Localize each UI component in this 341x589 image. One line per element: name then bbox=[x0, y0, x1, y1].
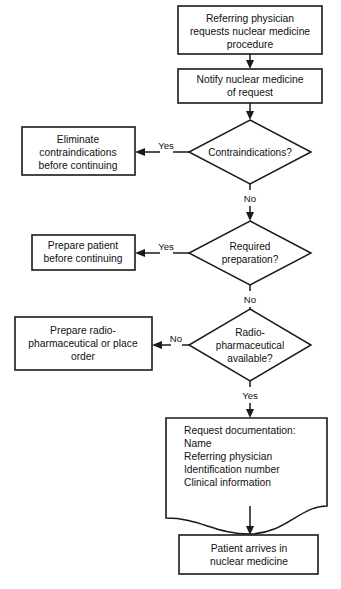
flowchart-diagram: Referring physician requests nuclear med… bbox=[0, 0, 341, 589]
start-line-2: requests nuclear medicine bbox=[190, 26, 310, 37]
arrival-line-1: Patient arrives in bbox=[211, 543, 288, 554]
edge-label-preparation-yes: Yes bbox=[158, 241, 174, 252]
documentation-line-3: Referring physician bbox=[184, 451, 272, 462]
connector-preparation-yes: Yes bbox=[135, 241, 189, 257]
notify-line-2: of request bbox=[227, 87, 273, 98]
node-arrival: Patient arrives in nuclear medicine bbox=[179, 535, 318, 574]
decision-radiopharmaceutical-line-1: Radio- bbox=[235, 327, 265, 338]
decision-preparation-shape bbox=[189, 221, 311, 285]
node-decision-contraindications: Contraindications? bbox=[189, 120, 311, 184]
connector-notify-to-decision-contraindications bbox=[246, 103, 254, 120]
connector-contraindications-no: No bbox=[244, 184, 256, 221]
arrowhead-down-icon bbox=[246, 60, 254, 69]
prepare-radiopharmaceutical-line-2: pharmaceutical or place bbox=[28, 338, 138, 349]
prepare-patient-line-1: Prepare patient bbox=[48, 240, 119, 251]
node-prepare-radiopharmaceutical: Prepare radio- pharmaceutical or place o… bbox=[15, 317, 152, 370]
documentation-line-1: Request documentation: bbox=[184, 425, 296, 436]
decision-radiopharmaceutical-line-3: available? bbox=[227, 353, 273, 364]
arrowhead-left-icon bbox=[135, 249, 145, 257]
start-line-3: procedure bbox=[227, 39, 274, 50]
connector-contraindications-yes: Yes bbox=[135, 140, 189, 156]
node-documentation: Request documentation: Name Referring ph… bbox=[166, 418, 327, 534]
arrowhead-left-icon bbox=[152, 341, 162, 349]
prepare-radiopharmaceutical-line-1: Prepare radio- bbox=[50, 325, 116, 336]
notify-line-1: Notify nuclear medicine bbox=[196, 74, 303, 85]
edge-label-contraindications-yes: Yes bbox=[158, 140, 174, 151]
start-line-1: Referring physician bbox=[206, 13, 294, 24]
decision-preparation-line-1: Required bbox=[230, 241, 271, 252]
prepare-patient-line-2: before continuing bbox=[43, 253, 122, 264]
eliminate-line-2: contraindications bbox=[39, 147, 116, 158]
documentation-line-2: Name bbox=[184, 438, 212, 449]
eliminate-line-1: Eliminate bbox=[57, 134, 100, 145]
node-notify: Notify nuclear medicine of request bbox=[178, 69, 322, 103]
connector-preparation-no: No bbox=[244, 285, 256, 309]
arrowhead-down-icon bbox=[246, 212, 254, 221]
node-eliminate: Eliminate contraindications before conti… bbox=[22, 127, 135, 175]
arrowhead-left-icon bbox=[135, 148, 145, 156]
decision-preparation-line-2: preparation? bbox=[222, 254, 279, 265]
documentation-line-4: Identification number bbox=[184, 464, 280, 475]
arrival-box-shape bbox=[179, 535, 318, 574]
edge-label-radiopharmaceutical-yes: Yes bbox=[242, 390, 258, 401]
connector-radiopharmaceutical-yes: Yes bbox=[242, 381, 258, 418]
documentation-line-5: Clinical information bbox=[184, 477, 271, 488]
connector-start-to-notify bbox=[246, 54, 254, 69]
edge-label-radiopharmaceutical-no: No bbox=[170, 333, 182, 344]
decision-contraindications-line-1: Contraindications? bbox=[208, 147, 292, 158]
edge-label-preparation-no: No bbox=[244, 294, 256, 305]
node-prepare-patient: Prepare patient before continuing bbox=[32, 235, 135, 270]
arrival-line-2: nuclear medicine bbox=[210, 556, 288, 567]
eliminate-line-3: before continuing bbox=[38, 160, 117, 171]
arrowhead-down-icon bbox=[246, 409, 254, 418]
node-decision-preparation: Required preparation? bbox=[189, 221, 311, 285]
node-decision-radiopharmaceutical: Radio- pharmaceutical available? bbox=[189, 309, 311, 381]
node-start: Referring physician requests nuclear med… bbox=[178, 6, 322, 54]
connector-radiopharmaceutical-no: No bbox=[152, 333, 189, 349]
arrowhead-down-icon bbox=[246, 111, 254, 120]
edge-label-contraindications-no: No bbox=[244, 193, 256, 204]
decision-radiopharmaceutical-line-2: pharmaceutical bbox=[216, 340, 284, 351]
prepare-radiopharmaceutical-line-3: order bbox=[71, 351, 96, 362]
